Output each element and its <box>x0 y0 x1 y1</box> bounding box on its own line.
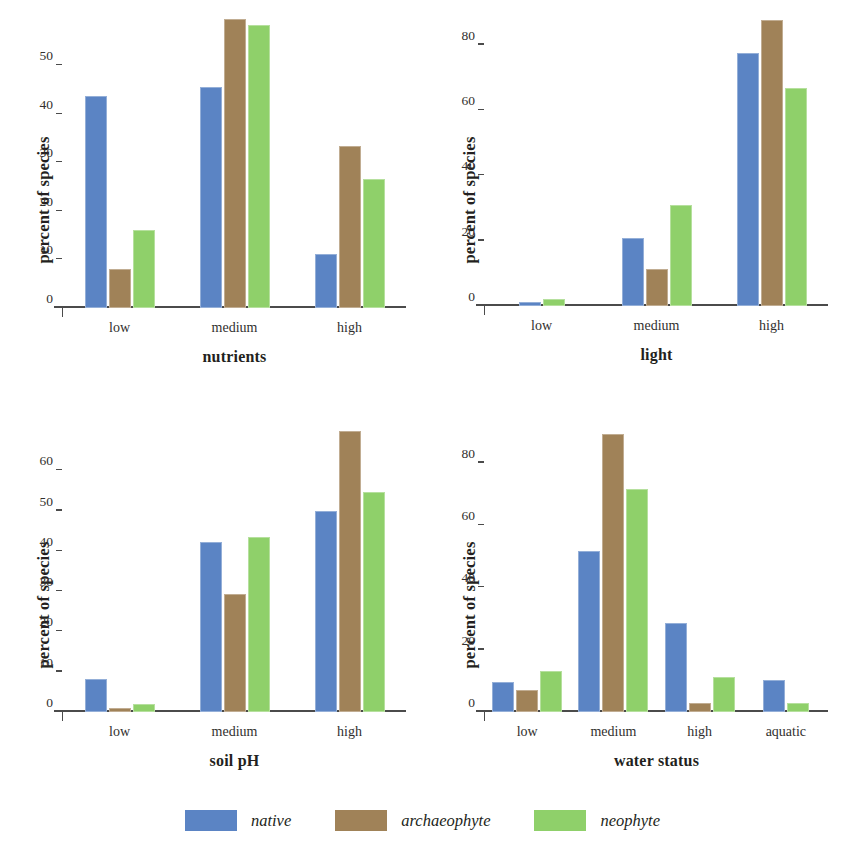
bar-neophyte <box>363 179 385 308</box>
bars <box>484 422 570 712</box>
x-category-label: low <box>484 724 570 740</box>
bar-archaeophyte <box>761 20 783 306</box>
panel-light: percent of species 020406080 lowmediumhi… <box>422 0 845 400</box>
plot-area: 020406080 lowmediumhighaquatic <box>484 422 829 712</box>
bar-archaeophyte <box>602 434 624 712</box>
y-axis-stub <box>62 308 64 317</box>
panel-soil-ph: percent of species 0102030405060 lowmedi… <box>0 410 422 800</box>
bar-archaeophyte <box>516 690 538 712</box>
bar-groups: lowmediumhigh <box>62 12 407 308</box>
bars <box>714 12 829 306</box>
bar-groups: lowmediumhigh <box>62 422 407 712</box>
bar-native <box>578 551 600 712</box>
figure-multi-panel-bar-charts: percent of species 01020304050 lowmedium… <box>0 0 845 849</box>
y-tick-label: 30 <box>40 145 54 161</box>
y-axis-stub <box>62 712 64 721</box>
panel-water-status: percent of species 020406080 lowmediumhi… <box>422 410 845 800</box>
bar-archaeophyte <box>224 19 246 308</box>
bars <box>570 422 656 712</box>
x-category-label: medium <box>570 724 656 740</box>
bars <box>743 422 829 712</box>
y-tick-label: 80 <box>462 445 476 461</box>
legend: nativearchaeophyteneophyte <box>0 810 845 831</box>
y-axis-stub <box>484 712 486 721</box>
x-category-label: medium <box>177 320 292 336</box>
y-tick-label: 60 <box>40 453 54 469</box>
y-tick-label: 50 <box>40 493 54 509</box>
plot-area: 0102030405060 lowmediumhigh <box>62 422 407 712</box>
x-axis-title: water status <box>484 752 829 770</box>
y-tick-label: 0 <box>468 289 475 305</box>
bar-group: high <box>714 12 829 306</box>
bar-archaeophyte <box>646 269 668 306</box>
bar-archaeophyte <box>224 594 246 712</box>
y-tick-label: 20 <box>462 223 476 239</box>
bar-neophyte <box>713 677 735 712</box>
bars <box>62 12 177 308</box>
y-tick-label: 20 <box>462 632 476 648</box>
bar-native <box>85 679 107 712</box>
x-category-label: medium <box>177 724 292 740</box>
y-axis-title: percent of species <box>460 541 480 668</box>
legend-label: archaeophyte <box>401 811 490 831</box>
bar-native <box>315 254 337 308</box>
y-tick-label: 30 <box>40 574 54 590</box>
y-tick-label: 80 <box>462 27 476 43</box>
x-category-label: high <box>657 724 743 740</box>
x-category-label: high <box>714 318 829 334</box>
bar-neophyte <box>248 25 270 308</box>
bar-group: high <box>292 12 407 308</box>
bar-native <box>85 96 107 308</box>
bar-native <box>665 623 687 712</box>
bar-group: medium <box>177 12 292 308</box>
bar-native <box>763 680 785 712</box>
y-tick-label: 40 <box>462 158 476 174</box>
x-axis-title: soil pH <box>62 752 407 770</box>
bars <box>177 422 292 712</box>
bar-group: medium <box>177 422 292 712</box>
bars <box>599 12 714 306</box>
legend-label: neophyte <box>600 811 660 831</box>
bars <box>484 12 599 306</box>
bar-archaeophyte <box>109 708 131 712</box>
y-tick-label: 0 <box>46 291 53 307</box>
bar-archaeophyte <box>339 146 361 308</box>
bars <box>292 12 407 308</box>
bar-neophyte <box>785 88 807 306</box>
y-tick-label: 40 <box>40 534 54 550</box>
y-axis-stub <box>484 306 486 315</box>
x-category-label: high <box>292 724 407 740</box>
bar-neophyte <box>363 492 385 712</box>
bar-native <box>200 87 222 308</box>
bar-group: medium <box>599 12 714 306</box>
y-tick-label: 50 <box>40 48 54 64</box>
plot-area: 01020304050 lowmediumhigh <box>62 12 407 308</box>
bar-neophyte <box>133 230 155 308</box>
legend-item-archaeophyte: archaeophyte <box>335 810 490 831</box>
x-axis-title: light <box>484 346 829 364</box>
bars <box>62 422 177 712</box>
bar-neophyte <box>626 489 648 712</box>
y-tick-label: 10 <box>40 242 54 258</box>
bar-group: high <box>292 422 407 712</box>
x-category-label: low <box>484 318 599 334</box>
y-tick-label: 60 <box>462 508 476 524</box>
bar-native <box>519 302 541 306</box>
bar-group: medium <box>570 422 656 712</box>
bar-native <box>737 53 759 306</box>
bar-native <box>492 682 514 712</box>
x-category-label: aquatic <box>743 724 829 740</box>
y-axis-title: percent of species <box>34 541 54 668</box>
x-axis-title: nutrients <box>62 348 407 366</box>
y-tick-label: 20 <box>40 614 54 630</box>
y-tick-label: 40 <box>40 97 54 113</box>
legend-item-native: native <box>185 810 291 831</box>
y-tick-label: 0 <box>468 695 475 711</box>
y-tick-label: 60 <box>462 93 476 109</box>
bar-neophyte <box>133 704 155 712</box>
bar-groups: lowmediumhighaquatic <box>484 422 829 712</box>
bar-native <box>622 238 644 306</box>
legend-label: native <box>251 811 291 831</box>
y-axis-title: percent of species <box>460 136 480 263</box>
bar-groups: lowmediumhigh <box>484 12 829 306</box>
